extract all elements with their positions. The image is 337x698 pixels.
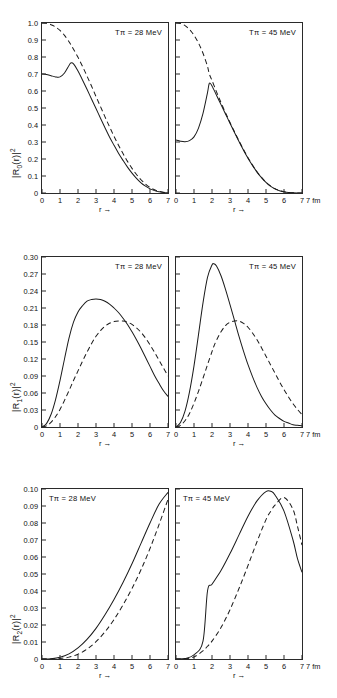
x-tick-label: 4 (246, 662, 250, 671)
x-tick-label: 4 (112, 430, 116, 439)
y-tick-label: 1.0 (28, 19, 42, 28)
x-tick-label: 4 (246, 196, 250, 205)
x-axis-caption: r → (99, 671, 111, 680)
y-tick-label: 0.5 (28, 104, 42, 113)
y-tick-label: 0.03 (24, 604, 42, 613)
y-axis-label-sub: 2 (16, 631, 23, 635)
y-tick-label: 0.4 (28, 121, 42, 130)
x-tick-label: 3 (228, 430, 232, 439)
x-tick-label: 1 (58, 196, 62, 205)
y-tick-label: 0.04 (24, 587, 42, 596)
y-axis-label-sup: 2 (9, 382, 16, 386)
x-tick-label: 5 (264, 430, 268, 439)
x-tick-label: 0 (174, 662, 178, 671)
x-tick-label: 7 (166, 430, 170, 439)
x-axis-caption: r → (233, 205, 245, 214)
x-tick-label: 6 (148, 430, 152, 439)
radial-wavefunction-figure: |R0(r)|2 Tπ = 28 MeV 1.00.90.80.70.60.50… (0, 0, 337, 698)
y-axis-label-R2: |R2(r)|2 (9, 444, 23, 644)
curve-solid (176, 83, 302, 193)
y-tick-label: 0.03 (24, 406, 42, 415)
curve-solid (176, 491, 302, 659)
x-tick-label: 5 (130, 662, 134, 671)
x-tick-label: 1 (58, 662, 62, 671)
y-tick-label: 0 (34, 655, 42, 664)
curve-group-R0-28MeV (42, 23, 168, 193)
y-tick-label: 0.12 (24, 355, 42, 364)
x-tick-label: 0 (174, 430, 178, 439)
x-tick-label: 0 (40, 430, 44, 439)
x-tick-label: 4 (112, 196, 116, 205)
y-tick-label: 0.02 (24, 621, 42, 630)
curve-solid (42, 492, 168, 659)
y-tick-label: 0.30 (24, 253, 42, 262)
curve-group-R1-45MeV (176, 257, 302, 427)
y-tick-label: 0.1 (28, 172, 42, 181)
x-tick-label: 1 (58, 430, 62, 439)
curve-group-R2-28MeV (42, 489, 168, 659)
panel-row-R0: |R0(r)|2 Tπ = 28 MeV 1.00.90.80.70.60.50… (0, 8, 337, 236)
x-tick-label: 5 (130, 430, 134, 439)
x-tick-label: 7 (300, 662, 304, 671)
x-tick-label: 5 (264, 662, 268, 671)
plot-panel-R0-28MeV: Tπ = 28 MeV 1.00.90.80.70.60.50.40.30.20… (41, 22, 169, 194)
y-tick-label: 0.01 (24, 638, 42, 647)
x-axis-unit-label: 7 fm (306, 196, 320, 205)
y-axis-label-R1: |R1(r)|2 (9, 212, 23, 412)
x-tick-label: 0 (40, 196, 44, 205)
y-tick-label: 0.09 (24, 502, 42, 511)
x-tick-label: 7 (166, 196, 170, 205)
x-tick-label: 0 (40, 662, 44, 671)
panel-row-R2: |R2(r)|2 Tπ = 28 MeV 0.100.090.080.070.0… (0, 474, 337, 698)
x-tick-label: 2 (210, 430, 214, 439)
x-tick-label: 7 (300, 430, 304, 439)
y-tick-label: 0.07 (24, 536, 42, 545)
y-axis-label-sup: 2 (9, 148, 16, 152)
curve-group-R2-45MeV (176, 489, 302, 659)
curve-dashed (176, 23, 302, 193)
x-tick-label: 4 (246, 430, 250, 439)
x-tick-label: 7 (166, 662, 170, 671)
x-tick-label: 2 (76, 430, 80, 439)
x-axis-unit-label: 7 fm (306, 662, 320, 671)
curve-solid (42, 63, 168, 193)
x-tick-label: 3 (228, 196, 232, 205)
x-tick-label: 2 (76, 196, 80, 205)
y-tick-label: 0 (34, 189, 42, 198)
y-axis-label-sub: 0 (16, 165, 23, 169)
x-axis-caption: r → (233, 439, 245, 448)
x-axis-unit-label: 7 fm (306, 430, 320, 439)
x-tick-label: 3 (94, 662, 98, 671)
y-tick-label: 0.9 (28, 36, 42, 45)
panel-row-R1: |R1(r)|2 Tπ = 28 MeV 0.300.270.240.210.1… (0, 242, 337, 470)
y-tick-label: 0.8 (28, 53, 42, 62)
y-axis-label-sup: 2 (9, 614, 16, 618)
x-tick-label: 2 (210, 662, 214, 671)
x-tick-label: 6 (148, 196, 152, 205)
y-tick-label: 0.2 (28, 155, 42, 164)
x-tick-label: 5 (130, 196, 134, 205)
plot-panel-R0-45MeV: Tπ = 45 MeV 01234567 r → 7 fm (175, 22, 303, 194)
curve-dashed (42, 23, 168, 193)
y-axis-label-R0: |R0(r)|2 (9, 0, 23, 178)
y-tick-label: 0.3 (28, 138, 42, 147)
y-tick-label: 0.21 (24, 304, 42, 313)
x-axis-caption: r → (99, 205, 111, 214)
x-tick-label: 4 (112, 662, 116, 671)
y-tick-label: 0.06 (24, 389, 42, 398)
y-tick-label: 0.7 (28, 70, 42, 79)
x-axis-caption: r → (233, 671, 245, 680)
x-tick-label: 1 (192, 196, 196, 205)
x-tick-label: 6 (282, 430, 286, 439)
x-tick-label: 3 (94, 196, 98, 205)
x-tick-label: 6 (282, 662, 286, 671)
x-tick-label: 5 (264, 196, 268, 205)
x-tick-label: 6 (282, 196, 286, 205)
x-tick-label: 2 (210, 196, 214, 205)
y-tick-label: 0.10 (24, 485, 42, 494)
curve-dashed (42, 499, 168, 659)
x-axis-caption: r → (99, 439, 111, 448)
plot-panel-R1-45MeV: Tπ = 45 MeV 01234567 r → 7 fm (175, 256, 303, 428)
y-tick-label: 0.24 (24, 287, 42, 296)
x-tick-label: 7 (300, 196, 304, 205)
